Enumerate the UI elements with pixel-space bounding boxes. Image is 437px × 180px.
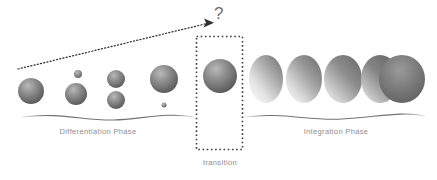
sphere-2-small: [74, 70, 82, 78]
sphere-final: [379, 55, 425, 103]
integration-phase-label: Integration Phase: [243, 127, 429, 136]
sphere-1: [18, 78, 44, 104]
transition-sphere: [203, 59, 237, 93]
oval-3: [324, 55, 362, 103]
sphere-4-dot: [162, 103, 167, 108]
sphere-3-bottom: [107, 91, 125, 109]
diagram-graphics: [0, 0, 437, 180]
differentiation-baseline: [22, 115, 194, 120]
integration-objects: [249, 55, 425, 103]
differentiation-objects: [18, 65, 178, 109]
sphere-4-large: [150, 65, 178, 93]
integration-baseline: [245, 114, 425, 119]
transition-label: transition: [178, 158, 262, 167]
oval-1: [249, 55, 283, 103]
pointer-arrow-icon: [18, 19, 214, 70]
sphere-3-top: [107, 70, 125, 88]
oval-2: [286, 55, 322, 103]
differentiation-phase-label: Differentiation Phase: [0, 127, 196, 136]
sphere-2-large: [65, 83, 87, 105]
diagram-canvas: ? Differentiation Phase Integration Phas…: [0, 0, 437, 180]
transition-box: [197, 37, 243, 150]
question-mark-label: ?: [214, 5, 223, 22]
